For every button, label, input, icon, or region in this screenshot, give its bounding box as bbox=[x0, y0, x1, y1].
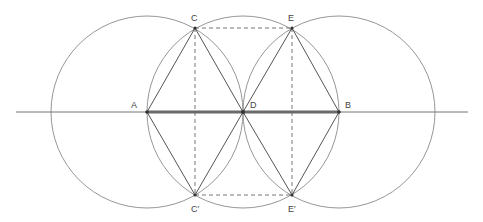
point-b bbox=[337, 110, 341, 114]
point-d bbox=[241, 110, 245, 114]
point-e bbox=[290, 26, 293, 29]
segment-ac bbox=[147, 28, 195, 112]
point-c-prime bbox=[193, 193, 196, 196]
label-b: B bbox=[345, 100, 351, 110]
label-d: D bbox=[250, 100, 257, 110]
label-e-prime: E′ bbox=[288, 204, 296, 214]
label-c-prime: C′ bbox=[191, 204, 199, 214]
segment-de-prime bbox=[243, 112, 292, 195]
geometric-construction-diagram: A D B C E C′ E′ bbox=[0, 0, 483, 222]
segment-c-prime-d bbox=[195, 112, 243, 195]
label-e: E bbox=[288, 13, 294, 23]
point-e-prime bbox=[290, 193, 293, 196]
segment-e-prime-b bbox=[292, 112, 339, 195]
point-c bbox=[193, 26, 196, 29]
segment-ac-prime bbox=[147, 112, 195, 195]
label-a: A bbox=[131, 100, 137, 110]
label-c: C bbox=[191, 13, 198, 23]
segment-cd bbox=[195, 28, 243, 112]
segment-eb bbox=[292, 28, 339, 112]
point-a bbox=[145, 110, 149, 114]
